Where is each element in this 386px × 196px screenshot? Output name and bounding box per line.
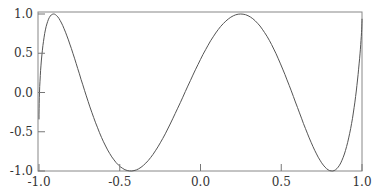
y-tick-label: 0.0	[14, 86, 33, 100]
y-tick-label: -0.5	[10, 125, 33, 139]
chart: -1.0-0.50.00.51.0 1.00.50.0-0.5-1.0	[0, 0, 386, 196]
x-axis: -1.0-0.50.00.51.0	[27, 164, 371, 189]
y-tick-label: 0.5	[14, 46, 33, 60]
x-tick-label: 0.5	[272, 175, 291, 189]
x-tick-label: 0.0	[191, 175, 210, 189]
y-tick-label: -1.0	[10, 164, 33, 178]
y-axis: 1.00.50.0-0.5-1.0	[10, 7, 45, 178]
y-tick-label: 1.0	[14, 7, 33, 21]
x-tick-label: 1.0	[352, 175, 371, 189]
data-curve	[39, 14, 362, 171]
x-tick-label: -0.5	[108, 175, 131, 189]
